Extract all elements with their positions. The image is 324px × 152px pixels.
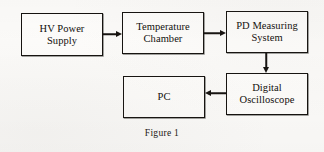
arrowhead-right-icon	[116, 31, 122, 37]
arrowhead-right-icon	[220, 30, 226, 36]
arrowhead-down-icon	[263, 67, 269, 73]
arrow-shaft	[265, 53, 267, 68]
block-label: HV Power Supply	[38, 23, 87, 46]
arrow-shaft	[103, 33, 117, 35]
block-pd-measuring-system: PD Measuring System	[226, 11, 308, 53]
block-label: PC	[156, 91, 173, 103]
block-label: PD Measuring System	[234, 20, 300, 43]
arrow-pd-measuring-system-to-digital-oscilloscope	[261, 53, 271, 73]
block-label: Temperature Chamber	[134, 21, 191, 44]
block-pc: PC	[123, 76, 205, 118]
block-label: Digital Oscilloscope	[238, 82, 297, 105]
arrowhead-left-icon	[205, 90, 211, 96]
figure-canvas: HV Power Supply Temperature Chamber PD M…	[0, 0, 324, 152]
block-temperature-chamber: Temperature Chamber	[122, 12, 204, 54]
arrow-temperature-chamber-to-pd-measuring-system	[204, 28, 226, 38]
arrow-digital-oscilloscope-to-pc	[205, 88, 226, 98]
block-digital-oscilloscope: Digital Oscilloscope	[226, 73, 308, 115]
arrow-shaft	[210, 92, 226, 94]
arrow-hv-power-supply-to-temperature-chamber	[103, 29, 122, 39]
arrow-shaft	[204, 32, 221, 34]
block-hv-power-supply: HV Power Supply	[21, 13, 103, 56]
figure-caption: Figure 1	[0, 128, 324, 138]
